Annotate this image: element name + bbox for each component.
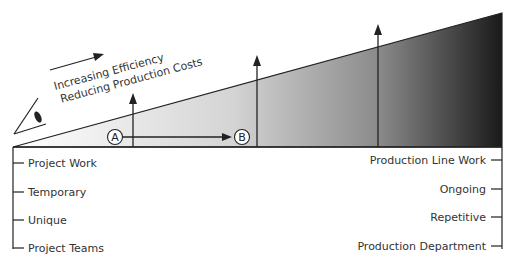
right-label-production-line-work: Production Line Work <box>370 154 486 167</box>
diagram-canvas: A B Increasing Efficiency Reducing Produ… <box>0 0 512 272</box>
right-label-production-department: Production Department <box>357 240 486 253</box>
point-b-label: B <box>238 131 246 144</box>
point-a-label: A <box>111 131 119 144</box>
left-label-unique: Unique <box>28 214 67 227</box>
right-label-repetitive: Repetitive <box>430 211 486 224</box>
right-label-ongoing: Ongoing <box>440 183 486 196</box>
title: Increasing Efficiency Reducing Productio… <box>52 42 204 107</box>
left-label-project-teams: Project Teams <box>28 242 104 255</box>
direction-arrow <box>50 53 104 70</box>
left-label-temporary: Temporary <box>28 186 86 199</box>
eye-icon <box>14 98 46 134</box>
left-label-project-work: Project Work <box>28 157 97 170</box>
